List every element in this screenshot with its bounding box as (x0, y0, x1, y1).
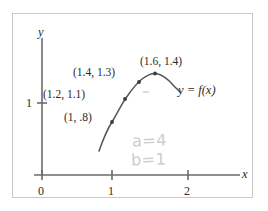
handwritten-b-value: b=1 (131, 151, 167, 168)
function-label: y = f(x) (178, 84, 216, 97)
math-figure: y x 0 1 2 1 (1, .8) (1.2, 1.1) (1.4, 1.3… (0, 0, 268, 211)
y-tick-label-1: 1 (26, 97, 32, 109)
point-label-4: (1.6, 1.4) (140, 56, 182, 68)
point-label-1: (1, .8) (64, 112, 92, 124)
handwritten-a-value: a=4 (132, 132, 167, 149)
y-axis-label: y (38, 26, 44, 39)
x-tick-label-0: 0 (38, 185, 44, 197)
data-point-4 (153, 72, 157, 76)
data-point-3 (137, 80, 141, 84)
point-label-3: (1.4, 1.3) (73, 67, 115, 79)
data-point-2 (123, 97, 127, 101)
data-point-1 (110, 120, 114, 124)
x-tick-label-2: 2 (184, 185, 190, 197)
point-label-2: (1.2, 1.1) (43, 89, 85, 101)
x-axis-label: x (242, 168, 248, 181)
x-tick-label-1: 1 (108, 185, 114, 197)
